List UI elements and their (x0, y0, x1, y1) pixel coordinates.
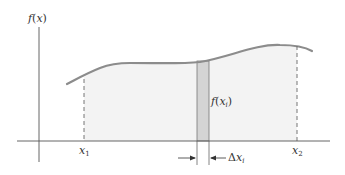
x1-sub: 1 (85, 150, 89, 158)
riemann-diagram: f(x) x1 x2 f(xi) Δxi (0, 0, 345, 175)
right-arrow-head (210, 156, 216, 161)
delta-symbol: Δ (228, 151, 236, 164)
x1-label: x1 (79, 145, 90, 158)
rectangle-strip (197, 61, 209, 141)
y-axis-label: f(x) (28, 13, 47, 24)
x2-sub: 2 (298, 150, 302, 158)
delta-x-label: Δxi (228, 152, 244, 165)
delta-sub: i (242, 157, 244, 165)
strip-height-label: f(xi) (211, 96, 232, 109)
area-under-curve (84, 45, 297, 141)
x2-label: x2 (292, 145, 303, 158)
left-arrow-head (190, 156, 196, 161)
